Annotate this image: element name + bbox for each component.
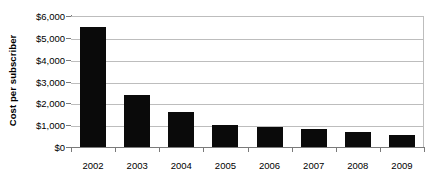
- x-axis-tick-label: 2006: [259, 160, 280, 171]
- x-axis-tick-mark: [292, 148, 293, 152]
- x-axis-tick-mark: [380, 148, 381, 152]
- y-axis-tick-label: $5,000: [36, 32, 65, 43]
- bar-2007: [301, 129, 327, 147]
- plot-area: [71, 16, 424, 147]
- y-axis-tick-mark: [66, 16, 71, 17]
- gridline: [71, 83, 423, 84]
- y-axis-tick-label: $1,000: [36, 120, 65, 131]
- bar-2005: [212, 125, 238, 147]
- x-axis-tick-mark: [248, 148, 249, 152]
- x-axis-tick-label: 2002: [82, 160, 103, 171]
- y-axis-tick-labels: $0$1,000$2,000$3,000$4,000$5,000$6,000: [24, 16, 68, 147]
- y-axis-tick-mark: [66, 60, 71, 61]
- y-axis-tick-label: $6,000: [36, 11, 65, 22]
- x-axis-tick-label: 2008: [347, 160, 368, 171]
- y-axis-tick-label: $2,000: [36, 98, 65, 109]
- y-axis-tick-mark: [66, 82, 71, 83]
- x-axis-tick-mark: [159, 148, 160, 152]
- x-axis-tick-mark: [71, 148, 72, 152]
- y-axis-tick-mark: [66, 103, 71, 104]
- gridline: [71, 39, 423, 40]
- y-axis-tick-mark: [66, 38, 71, 39]
- x-axis-tick-label: 2005: [215, 160, 236, 171]
- x-axis-tick-mark: [203, 148, 204, 152]
- bar-2008: [345, 132, 371, 147]
- y-axis-tick-label: $3,000: [36, 76, 65, 87]
- y-axis-title-text: Cost per subscriber: [8, 34, 19, 126]
- x-axis-tick-label: 2003: [127, 160, 148, 171]
- x-axis-tick-label: 2004: [171, 160, 192, 171]
- x-axis-tick-mark: [336, 148, 337, 152]
- x-axis-tick-mark: [424, 148, 425, 152]
- bar-2003: [124, 95, 150, 147]
- y-axis-tick-label: $4,000: [36, 54, 65, 65]
- x-axis-tick-mark: [115, 148, 116, 152]
- y-axis-tick-label: $0: [54, 142, 65, 153]
- x-axis-tick-label: 2007: [303, 160, 324, 171]
- bar-2009: [389, 135, 415, 147]
- bar-chart: Cost per subscriber $0$1,000$2,000$3,000…: [0, 0, 448, 186]
- y-axis-title: Cost per subscriber: [0, 0, 26, 160]
- bar-2002: [80, 27, 106, 147]
- gridline: [71, 61, 423, 62]
- y-axis-tick-mark: [66, 125, 71, 126]
- bar-2004: [168, 112, 194, 147]
- x-axis-tick-label: 2009: [391, 160, 412, 171]
- bar-2006: [257, 127, 283, 147]
